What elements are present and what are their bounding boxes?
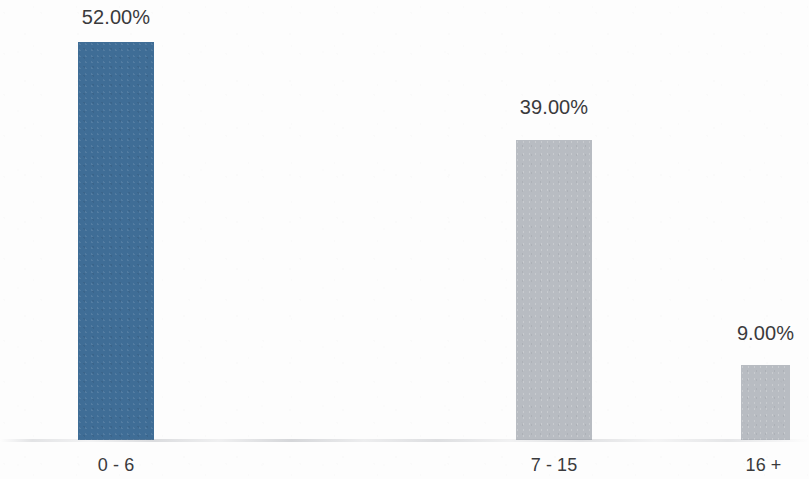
baseline-artifact	[0, 439, 809, 442]
category-label-7-15: 7 - 15	[486, 455, 622, 476]
value-label-7-15: 39.00%	[516, 96, 592, 119]
bar-fill	[78, 42, 154, 440]
bar-fill	[516, 140, 592, 440]
category-label-0-6: 0 - 6	[48, 455, 184, 476]
value-label-16-plus: 9.00%	[724, 322, 807, 345]
bar-7-15[interactable]	[516, 140, 592, 440]
bar-16-plus[interactable]	[741, 365, 790, 440]
value-label-0-6: 52.00%	[78, 6, 154, 29]
bar-fill	[741, 365, 790, 440]
bar-chart: 52.00% 39.00% 9.00% 0 - 6 7 - 15 16 +	[0, 0, 809, 479]
bar-0-6[interactable]	[78, 42, 154, 440]
category-label-16-plus: 16 +	[718, 455, 809, 476]
